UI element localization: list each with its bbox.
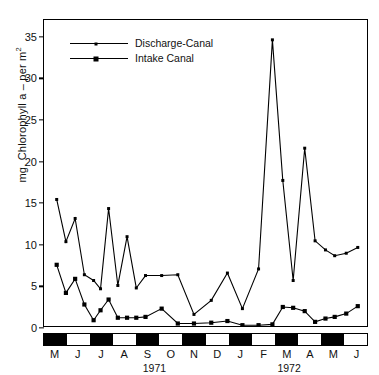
data-point [271, 38, 274, 41]
data-point [356, 246, 359, 249]
month-block-2 [90, 334, 113, 345]
data-point [324, 248, 327, 251]
data-point [160, 307, 164, 311]
data-point [176, 273, 179, 276]
data-point [107, 297, 111, 301]
month-block-6 [182, 334, 205, 345]
chlorophyll-line-chart: mg. Chlorophyll a – per m2 0510152025303… [0, 0, 379, 375]
data-point [82, 302, 86, 306]
data-point [192, 321, 196, 325]
month-block-10 [275, 334, 298, 345]
series-plot [44, 20, 367, 326]
data-point [241, 307, 244, 310]
data-point [356, 304, 360, 308]
data-point [92, 318, 96, 322]
month-label-5: O [159, 348, 182, 362]
month-block-3 [113, 334, 136, 345]
data-point [73, 277, 77, 281]
data-point [74, 217, 77, 220]
plot-area: 05101520253035 Discharge-Canal Intake Ca… [43, 19, 368, 327]
data-point [176, 321, 180, 325]
month-label-11: A [298, 348, 321, 362]
data-point [291, 306, 295, 310]
month-label-6: N [182, 348, 205, 362]
month-block-11 [298, 334, 321, 345]
data-point [64, 291, 68, 295]
data-point [143, 315, 147, 319]
month-label-9: F [252, 348, 275, 362]
month-label-1: J [66, 348, 89, 362]
month-block-12 [321, 334, 344, 345]
data-point [116, 284, 119, 287]
data-point [135, 286, 138, 289]
month-block-8 [229, 334, 252, 345]
month-block-5 [159, 334, 182, 345]
month-label-7: D [206, 348, 229, 362]
data-point [303, 147, 306, 150]
data-point [225, 319, 229, 323]
data-point [64, 240, 67, 243]
month-band [43, 333, 368, 346]
month-block-4 [136, 334, 159, 345]
data-point [92, 279, 95, 282]
year-label-1971: 1971 [143, 362, 166, 374]
data-point [55, 198, 58, 201]
year-label-1972: 1972 [277, 362, 300, 374]
data-point [226, 272, 229, 275]
month-label-13: J [345, 348, 368, 362]
data-point [107, 207, 110, 210]
month-label-10: M [275, 348, 298, 362]
data-point [55, 263, 59, 267]
data-point [256, 323, 260, 326]
data-point [292, 279, 295, 282]
y-axis-title-exponent: 2 [14, 47, 23, 51]
month-label-3: A [113, 348, 136, 362]
data-point [125, 316, 129, 320]
month-label-0: M [43, 348, 66, 362]
data-point [83, 273, 86, 276]
month-labels: MJJASONDJFMAMJ [43, 348, 368, 362]
data-point [160, 274, 163, 277]
data-point [303, 309, 307, 313]
data-point [192, 313, 195, 316]
data-point [144, 274, 147, 277]
data-point [344, 312, 348, 316]
data-point [281, 305, 285, 309]
data-point [209, 321, 213, 325]
data-point [210, 299, 213, 302]
data-point [99, 287, 102, 290]
month-label-12: M [322, 348, 345, 362]
month-block-1 [67, 334, 90, 345]
month-block-9 [252, 334, 275, 345]
month-block-13 [344, 334, 367, 345]
data-point [314, 239, 317, 242]
month-label-4: S [136, 348, 159, 362]
data-point [333, 254, 336, 257]
y-tick-mark-0 [39, 327, 44, 328]
data-point [345, 252, 348, 255]
data-point [323, 316, 327, 320]
data-point [134, 316, 138, 320]
data-point [281, 179, 284, 182]
month-label-2: J [89, 348, 112, 362]
year-labels: 19711972 [43, 362, 368, 375]
data-point [257, 267, 260, 270]
data-point [333, 315, 337, 319]
month-label-8: J [229, 348, 252, 362]
month-block-7 [206, 334, 229, 345]
data-point [240, 323, 244, 326]
series-line-discharge-canal [57, 40, 358, 315]
data-point [270, 322, 274, 326]
data-point [313, 320, 317, 324]
month-block-0 [44, 334, 67, 345]
data-point [126, 235, 129, 238]
data-point [98, 308, 102, 312]
data-point [116, 316, 120, 320]
